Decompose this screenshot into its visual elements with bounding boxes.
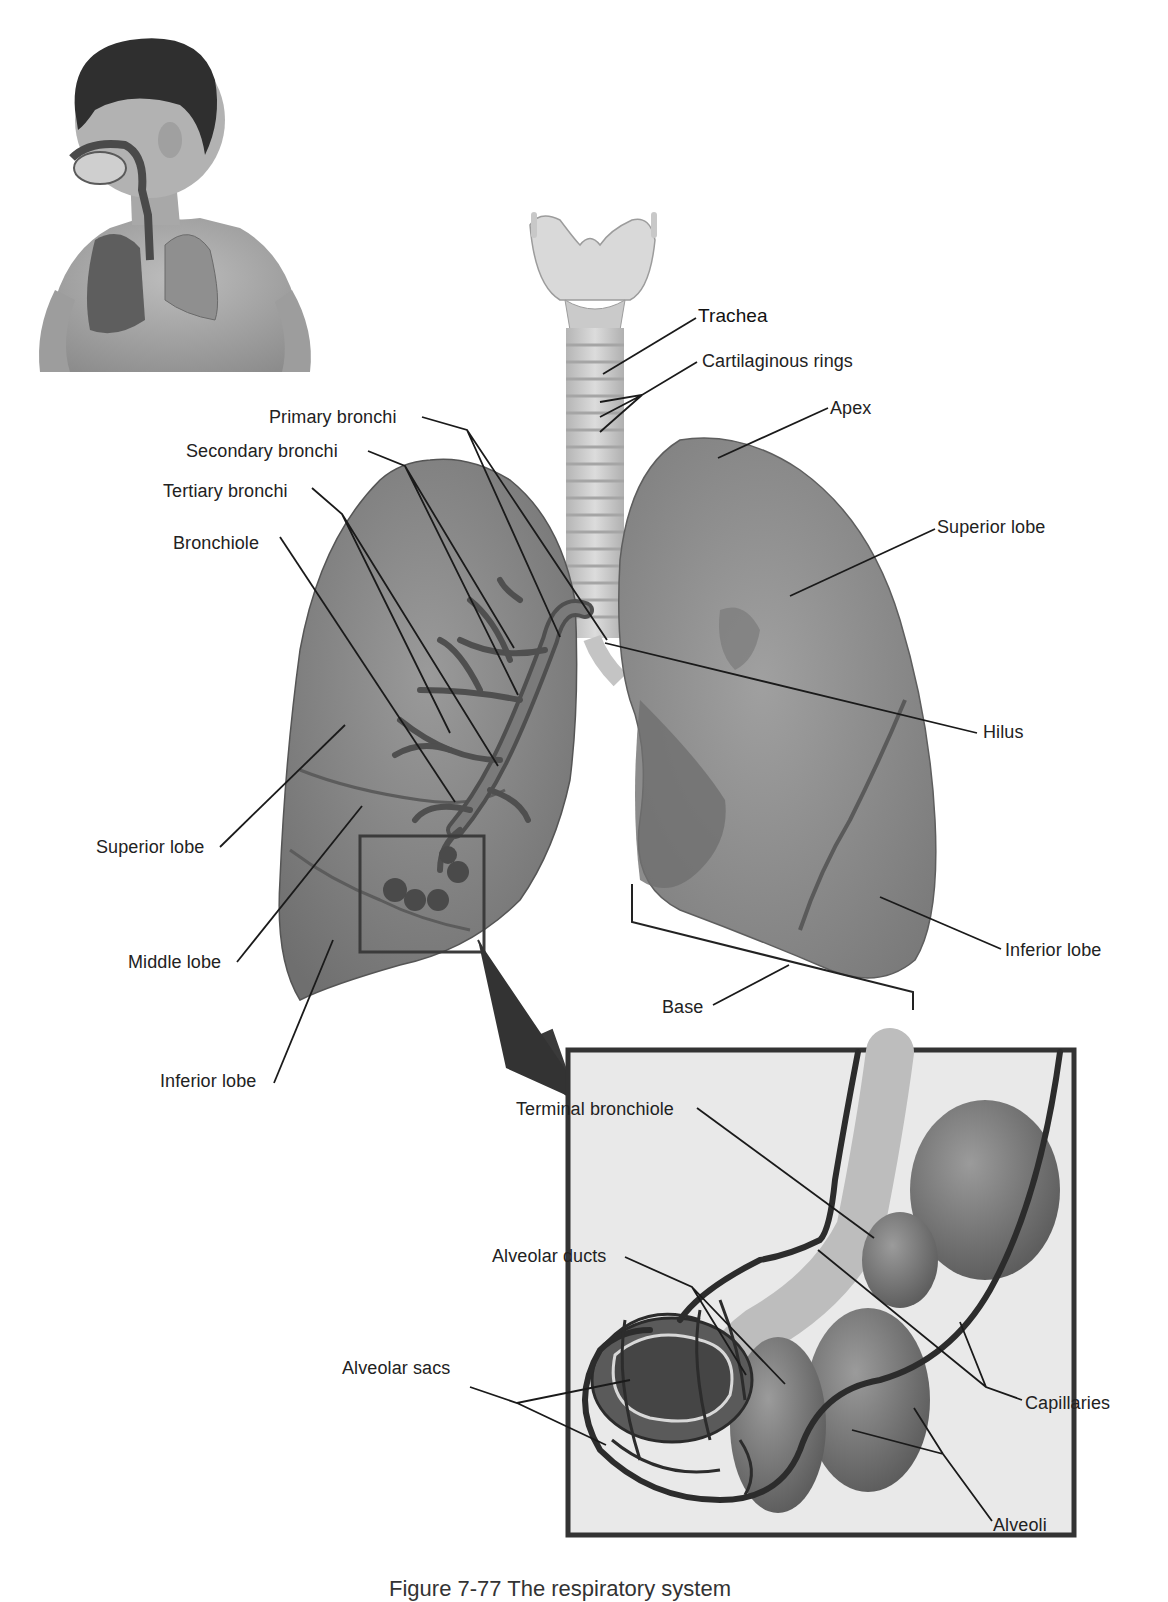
label-superior-lobe-right: Superior lobe: [937, 517, 1045, 537]
label-cartilaginous-rings: Cartilaginous rings: [702, 351, 853, 371]
right-lung-illustration: [279, 459, 585, 1000]
label-alveoli: Alveoli: [993, 1515, 1047, 1535]
label-inferior-lobe-left: Inferior lobe: [160, 1071, 256, 1091]
label-terminal-bronchiole: Terminal bronchiole: [516, 1099, 674, 1119]
label-alveolar-sacs: Alveolar sacs: [342, 1358, 450, 1378]
label-superior-lobe-left: Superior lobe: [96, 837, 204, 857]
left-lung-illustration: [619, 438, 936, 978]
label-secondary-bronchi: Secondary bronchi: [186, 441, 338, 461]
label-inferior-lobe-right: Inferior lobe: [1005, 940, 1101, 960]
label-primary-bronchi: Primary bronchi: [269, 407, 397, 427]
label-capillaries: Capillaries: [1025, 1393, 1110, 1413]
label-apex: Apex: [830, 398, 871, 418]
child-figure: [39, 38, 311, 372]
label-alveolar-ducts: Alveolar ducts: [492, 1246, 606, 1266]
alveoli-detail-inset: [568, 1050, 1074, 1535]
label-hilus: Hilus: [983, 722, 1024, 742]
label-tertiary-bronchi: Tertiary bronchi: [163, 481, 288, 501]
label-bronchiole: Bronchiole: [173, 533, 259, 553]
label-trachea: Trachea: [698, 306, 768, 326]
figure-caption: Figure 7-77 The respiratory system: [300, 1576, 820, 1602]
label-middle-lobe: Middle lobe: [128, 952, 221, 972]
label-base: Base: [662, 997, 703, 1017]
